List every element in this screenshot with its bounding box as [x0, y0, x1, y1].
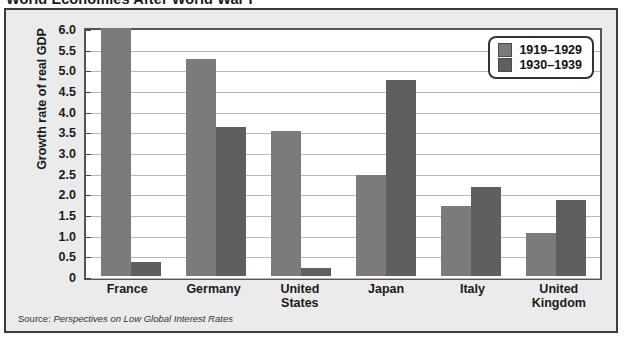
x-axis-label-line: United	[257, 282, 343, 296]
x-axis-label: UnitedStates	[257, 282, 343, 310]
x-axis-label-line: Kingdom	[516, 296, 602, 310]
legend: 1919–1929 1930–1939	[488, 36, 594, 79]
x-axis-label-line: Italy	[429, 282, 515, 296]
y-axis-tick-label: 3.5	[59, 126, 76, 140]
x-axis-label: Italy	[429, 282, 515, 310]
y-axis-tick-label: 2.0	[59, 188, 76, 202]
y-axis-tickmark	[86, 257, 91, 258]
legend-label: 1919–1929	[519, 43, 582, 57]
x-axis-label: Japan	[343, 282, 429, 310]
y-axis-tickmark	[86, 113, 91, 114]
bar	[356, 175, 386, 276]
bar	[131, 262, 161, 276]
x-axis-labels: FranceGermanyUnitedStatesJapanItalyUnite…	[84, 282, 602, 310]
y-axis-tickmark	[86, 133, 91, 134]
x-axis-label: France	[84, 282, 170, 310]
y-axis-tick-label: 5.5	[59, 44, 76, 58]
y-axis-tickmark	[86, 71, 91, 72]
chart-panel: Growth rate of real GDP 6.05.55.04.54.03…	[4, 8, 618, 333]
y-axis-tickmark	[86, 216, 91, 217]
source-reference: Perspectives on Low Global Interest Rate…	[53, 313, 233, 324]
legend-swatch-icon	[498, 58, 512, 72]
chart-page: World Economies After World War I Growth…	[0, 0, 628, 339]
x-axis-label-line: France	[84, 282, 170, 296]
x-axis-label-line: Japan	[343, 282, 429, 296]
bar	[301, 268, 331, 276]
legend-label: 1930–1939	[519, 58, 582, 72]
y-axis-tick-label: 0	[69, 271, 76, 285]
y-axis-tick-label: 5.0	[59, 64, 76, 78]
bar	[101, 28, 131, 276]
y-axis-tick-label: 6.0	[59, 23, 76, 37]
bar-group	[173, 32, 258, 276]
legend-item: 1930–1939	[498, 57, 582, 72]
bar	[471, 187, 501, 276]
bar	[441, 206, 471, 276]
y-axis-tick-label: 1.5	[59, 209, 76, 223]
y-axis-tickmark	[86, 51, 91, 52]
page-title: World Economies After World War I	[6, 0, 253, 7]
x-axis-label-line: States	[257, 296, 343, 310]
legend-item: 1919–1929	[498, 42, 582, 57]
bar	[216, 127, 246, 276]
x-axis-label-line: United	[516, 282, 602, 296]
y-axis-tick-label: 4.5	[59, 85, 76, 99]
x-axis-label: Germany	[170, 282, 256, 310]
gridline	[86, 278, 600, 279]
source-prefix: Source:	[18, 313, 51, 324]
y-axis-tickmark	[86, 175, 91, 176]
y-axis-tick-label: 1.0	[59, 230, 76, 244]
bar-group	[258, 32, 343, 276]
y-axis-tick-label: 3.0	[59, 147, 76, 161]
y-axis-title: Growth rate of real GDP	[35, 19, 49, 179]
y-axis-tickmark	[86, 30, 91, 31]
bar	[556, 200, 586, 276]
y-axis-tickmark	[86, 92, 91, 93]
y-axis-tickmark	[86, 154, 91, 155]
bar	[526, 233, 556, 276]
y-axis-tickmark	[86, 237, 91, 238]
y-axis-tick-label: 2.5	[59, 168, 76, 182]
y-axis-tick-label: 0.5	[59, 250, 76, 264]
x-axis-label-line: Germany	[170, 282, 256, 296]
bar-group	[343, 32, 428, 276]
bar-group	[88, 32, 173, 276]
y-axis-tickmark	[86, 195, 91, 196]
x-axis-label: UnitedKingdom	[516, 282, 602, 310]
y-axis-tick-label: 4.0	[59, 106, 76, 120]
y-axis-tickmark	[86, 278, 91, 279]
bar	[186, 59, 216, 276]
bar	[271, 131, 301, 276]
source-note: Source: Perspectives on Low Global Inter…	[18, 313, 233, 324]
legend-swatch-icon	[498, 43, 512, 57]
bar	[386, 80, 416, 276]
